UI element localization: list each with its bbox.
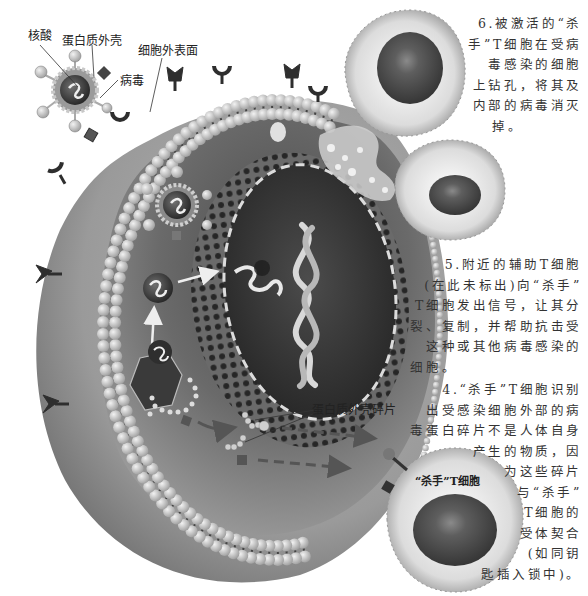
label-protein-shell-fragments: 蛋白质外壳碎片 <box>312 403 396 417</box>
label-virus: 病毒 <box>120 74 144 88</box>
label-protein-shell: 蛋白质外壳 <box>62 34 122 48</box>
killer-t-cell-top <box>345 10 465 136</box>
killer-t-cell-middle <box>395 140 505 240</box>
annotation-step-5: 5.附近的辅助T细胞 (在此未标出)向“杀手” T细胞发出信号，让其分 裂、复制… <box>410 255 582 378</box>
label-cell-surface: 细胞外表面 <box>138 44 198 58</box>
virus-outside <box>35 50 112 132</box>
annotation-step-4: 4.“杀手”T细胞识别 出受感染细胞外部的病 毒蛋白碎片不是人体自身 产生的物质… <box>410 380 582 585</box>
annotation-step-6: 6.被激活的“杀 手”T细胞在受病 毒感染的细胞 上钻孔，将其及 内部的病毒消灭… <box>468 14 582 137</box>
label-nucleic-acid: 核酸 <box>28 29 52 43</box>
